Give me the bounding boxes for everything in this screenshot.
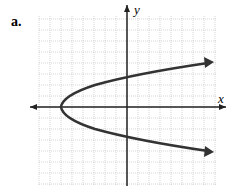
curve-arrow-upper-icon	[204, 57, 214, 68]
y-axis-label: y	[132, 2, 140, 17]
x-axis-label: x	[217, 91, 224, 106]
parabola-graph: y x	[0, 0, 235, 186]
x-axis-arrow-left-icon	[30, 104, 37, 110]
y-axis-arrow-icon	[124, 5, 130, 12]
curve-arrow-lower-icon	[204, 146, 214, 157]
